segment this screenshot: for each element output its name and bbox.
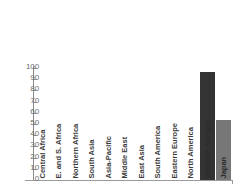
category-label: Western Europe — [203, 121, 211, 178]
y-tick-mark — [34, 180, 37, 181]
category-label: Eastern Europe — [170, 123, 178, 178]
category-label: Central Africa — [38, 129, 46, 178]
category-label: E. and S. Africa — [55, 123, 63, 178]
bar-chart: 0102030405060708090100 Central AfricaE. … — [0, 0, 241, 189]
y-tick: 0 — [0, 180, 220, 181]
category-label: South America — [154, 125, 162, 178]
x-axis-end-tick — [232, 180, 233, 184]
category-label: Middle East — [121, 136, 129, 178]
category-label: South Asia — [88, 139, 96, 178]
category-label: Northern Africa — [71, 123, 79, 178]
category-label: Asia-Pacific — [104, 135, 112, 178]
category-label: Japan — [220, 156, 228, 178]
category-label: East Asia — [137, 145, 145, 179]
category-label: North America — [187, 127, 195, 178]
